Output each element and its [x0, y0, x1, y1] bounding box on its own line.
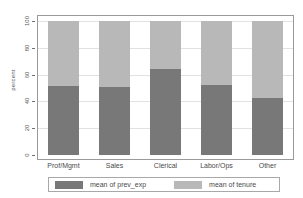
legend-entry[interactable]: mean of tenure	[168, 178, 256, 191]
bar-segment-tenure	[150, 21, 181, 69]
bar-group	[201, 21, 232, 155]
y-axis-tick-mark	[32, 128, 35, 129]
bar-segment-tenure	[252, 21, 283, 98]
bar-segment-prev-exp	[99, 87, 130, 155]
bar-group	[150, 21, 181, 155]
x-axis-tick-labels: Prof/MgmtSalesClericalLabor/OpsOther	[38, 162, 293, 174]
legend-swatch	[174, 181, 202, 189]
y-axis-tick-mark	[32, 101, 35, 102]
bar-segment-prev-exp	[252, 98, 283, 155]
bar-group	[48, 21, 79, 155]
bar-group	[252, 21, 283, 155]
x-axis-tick-label: Other	[228, 162, 303, 169]
legend-label: mean of prev_exp	[90, 181, 146, 188]
bar-segment-tenure	[48, 21, 79, 86]
y-axis-tick-text: 0	[24, 153, 30, 156]
bar-group	[99, 21, 130, 155]
y-axis-tick-mark	[32, 75, 35, 76]
bar-segment-tenure	[99, 21, 130, 87]
legend-entry[interactable]: mean of prev_exp	[49, 178, 146, 191]
y-axis-tick-text: 60	[24, 71, 30, 78]
plot-area	[38, 21, 293, 155]
bar-segment-prev-exp	[48, 86, 79, 155]
y-axis-tick-mark	[32, 21, 35, 22]
bar-segment-prev-exp	[201, 85, 232, 155]
y-axis-tick-mark	[32, 48, 35, 49]
legend-swatch	[55, 181, 83, 189]
chart-legend: mean of prev_expmean of tenure	[48, 177, 280, 192]
legend-label: mean of tenure	[209, 181, 256, 188]
y-axis-tick-mark	[32, 155, 35, 156]
y-axis-tick-text: 80	[24, 44, 30, 51]
bar-segment-tenure	[201, 21, 232, 85]
y-axis-tick-text: 100	[24, 16, 30, 26]
y-axis-title-label: percent	[10, 69, 16, 90]
bar-segment-prev-exp	[150, 69, 181, 155]
y-axis-tick-text: 20	[24, 125, 30, 132]
stacked-bar-chart-figure: percent 020406080100 Prof/MgmtSalesCleri…	[0, 0, 302, 198]
y-axis-tick-text: 40	[24, 98, 30, 105]
